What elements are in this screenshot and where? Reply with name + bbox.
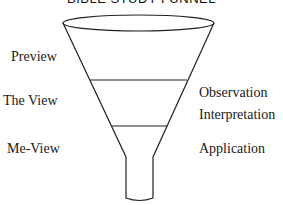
funnel-rim bbox=[63, 15, 214, 31]
label-interpretation: Interpretation bbox=[199, 107, 275, 123]
label-observation: Observation bbox=[199, 85, 267, 101]
label-the-view: The View bbox=[3, 93, 58, 109]
label-application: Application bbox=[199, 141, 265, 157]
funnel-body bbox=[63, 23, 214, 201]
label-preview: Preview bbox=[11, 49, 57, 65]
label-me-view: Me-View bbox=[7, 141, 60, 157]
